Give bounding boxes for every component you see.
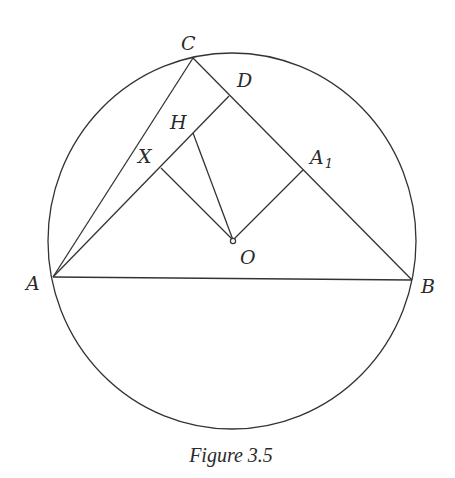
- figure-caption: Figure 3.5: [188, 444, 273, 467]
- segment-AB: [53, 277, 412, 280]
- label-H: H: [169, 111, 187, 133]
- segment-AD: [53, 96, 229, 277]
- label-A1-subscript: 1: [325, 156, 333, 171]
- label-O: O: [240, 246, 256, 268]
- label-A1: A1: [308, 146, 333, 171]
- label-A1-main: A: [308, 146, 324, 168]
- label-C: C: [181, 32, 196, 54]
- segment-A1O: [233, 170, 303, 240]
- segment-BC: [193, 58, 412, 280]
- label-B: B: [420, 275, 435, 297]
- segment-HO: [193, 133, 233, 240]
- segment-XO: [161, 168, 233, 240]
- segment-CA: [53, 58, 193, 277]
- label-X: X: [136, 145, 153, 167]
- label-D: D: [236, 69, 252, 91]
- center-point-O: [230, 238, 235, 243]
- geometry-figure: C D H X A1 O A B Figure 3.5: [0, 0, 455, 478]
- label-A: A: [24, 272, 40, 294]
